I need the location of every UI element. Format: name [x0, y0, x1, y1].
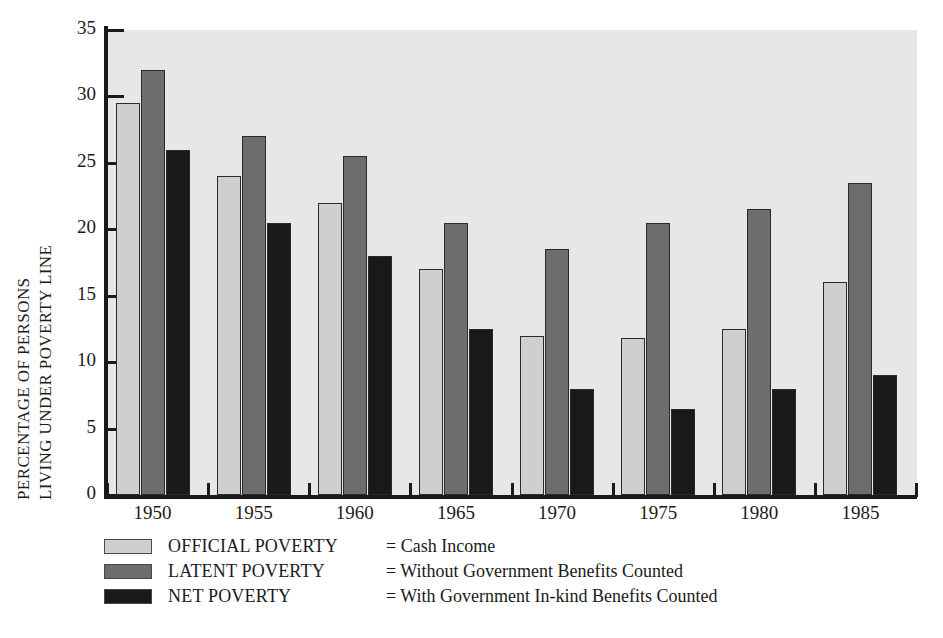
y-tick-label-30: 30 — [50, 83, 96, 105]
legend-desc-net: = With Government In-kind Benefits Count… — [386, 586, 718, 607]
legend-swatch-official-icon — [104, 539, 152, 554]
chart-legend: OFFICIAL POVERTY = Cash Income LATENT PO… — [104, 534, 864, 609]
bar-official-1960 — [318, 203, 342, 495]
x-tick-label-1980: 1980 — [704, 502, 814, 524]
bar-official-1975 — [621, 338, 645, 495]
x-tick-label-1950: 1950 — [98, 502, 208, 524]
y-tick-label-25: 25 — [50, 150, 96, 172]
legend-label-official: OFFICIAL POVERTY — [168, 536, 386, 557]
y-tick-label-15: 15 — [50, 283, 96, 305]
bars-layer — [108, 30, 917, 495]
bar-official-1965 — [419, 269, 443, 495]
y-axis-title-line-1: PERCENTAGE OF PERSONS — [14, 278, 34, 500]
bar-latent-1980 — [747, 209, 771, 495]
legend-item-official: OFFICIAL POVERTY = Cash Income — [104, 534, 864, 559]
x-tick-label-1960: 1960 — [300, 502, 410, 524]
bar-net-1970 — [570, 389, 594, 495]
x-tick-label-1985: 1985 — [805, 502, 915, 524]
bar-official-1970 — [520, 336, 544, 495]
legend-label-latent: LATENT POVERTY — [168, 561, 386, 582]
poverty-bar-chart-figure: PERCENTAGE OF PERSONS LIVING UNDER POVER… — [0, 0, 943, 638]
bar-net-1975 — [671, 409, 695, 495]
legend-swatch-latent-icon — [104, 564, 152, 579]
legend-item-net: NET POVERTY = With Government In-kind Be… — [104, 584, 864, 609]
x-tick-label-1955: 1955 — [199, 502, 309, 524]
bar-net-1950 — [166, 150, 190, 495]
y-tick-label-10: 10 — [50, 349, 96, 371]
bar-latent-1975 — [646, 223, 670, 495]
legend-desc-latent: = Without Government Benefits Counted — [386, 561, 683, 582]
bar-latent-1965 — [444, 223, 468, 495]
y-tick-label-0: 0 — [50, 482, 96, 504]
bar-net-1955 — [267, 223, 291, 495]
bar-latent-1960 — [343, 156, 367, 495]
y-tick-label-20: 20 — [50, 216, 96, 238]
bar-latent-1950 — [141, 70, 165, 495]
bar-net-1965 — [469, 329, 493, 495]
bar-official-1985 — [823, 282, 847, 495]
legend-label-net: NET POVERTY — [168, 586, 386, 607]
y-tick-label-35: 35 — [50, 17, 96, 39]
bar-official-1950 — [116, 103, 140, 495]
bar-official-1980 — [722, 329, 746, 495]
legend-swatch-net-icon — [104, 589, 152, 604]
bar-net-1985 — [873, 375, 897, 495]
x-tick-label-1970: 1970 — [502, 502, 612, 524]
legend-desc-official: = Cash Income — [386, 536, 495, 557]
bar-latent-1970 — [545, 249, 569, 495]
bar-latent-1955 — [242, 136, 266, 495]
x-tick-label-1975: 1975 — [603, 502, 713, 524]
x-tick-label-1965: 1965 — [401, 502, 511, 524]
legend-item-latent: LATENT POVERTY = Without Government Bene… — [104, 559, 864, 584]
bar-latent-1985 — [848, 183, 872, 495]
bar-net-1980 — [772, 389, 796, 495]
bar-net-1960 — [368, 256, 392, 495]
y-tick-label-5: 5 — [50, 416, 96, 438]
bar-official-1955 — [217, 176, 241, 495]
